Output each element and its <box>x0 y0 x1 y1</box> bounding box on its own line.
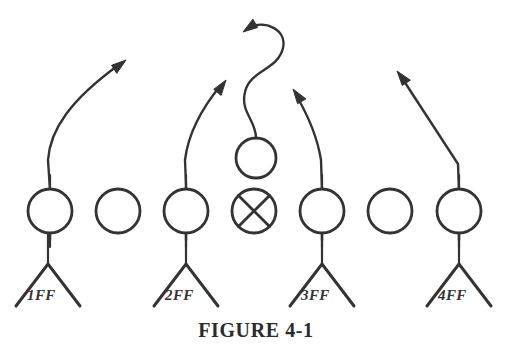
quarterback-circle[interactable] <box>236 138 276 178</box>
route-quarterback <box>243 19 283 138</box>
backfield-layer: 1FF2FF3FF4FF <box>16 233 491 306</box>
figure-container: 1FF2FF3FF4FF FIGURE 4-1 <box>0 0 508 350</box>
player-lineman-2[interactable] <box>96 189 140 233</box>
route-arrowhead <box>293 89 306 104</box>
back-label: 2FF <box>164 287 194 303</box>
route-arrowhead <box>112 60 126 73</box>
route-line <box>244 25 283 138</box>
lineman-circle[interactable] <box>437 189 481 233</box>
player-lineman-6[interactable] <box>368 189 412 233</box>
back-4ff[interactable]: 4FF <box>427 233 491 306</box>
lineman-circle[interactable] <box>28 189 72 233</box>
football-play-diagram: 1FF2FF3FF4FF FIGURE 4-1 <box>0 0 508 350</box>
route-arrowhead <box>243 19 258 32</box>
back-label: 3FF <box>300 287 330 303</box>
back-3ff[interactable]: 3FF <box>290 233 354 306</box>
lineman-circle[interactable] <box>300 189 344 233</box>
linemen-layer <box>28 175 481 247</box>
back-label: 1FF <box>27 287 56 303</box>
figure-caption: FIGURE 4-1 <box>198 319 313 341</box>
player-center[interactable] <box>232 189 276 233</box>
lineman-circle[interactable] <box>96 189 140 233</box>
player-quarterback[interactable] <box>236 138 276 178</box>
player-lineman-1[interactable] <box>28 175 72 247</box>
lineman-circle[interactable] <box>368 189 412 233</box>
back-2ff[interactable]: 2FF <box>154 233 218 306</box>
lineman-circle[interactable] <box>164 189 208 233</box>
back-label: 4FF <box>437 287 467 303</box>
back-1ff[interactable]: 1FF <box>16 233 80 306</box>
quarterback-layer <box>236 138 276 178</box>
route-arrowhead <box>397 71 410 85</box>
